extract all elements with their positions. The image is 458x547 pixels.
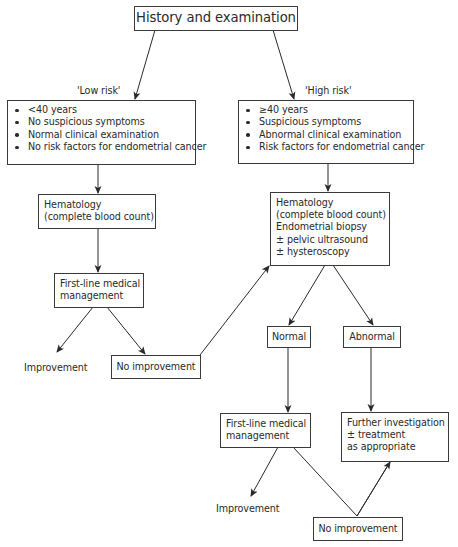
box-line: Further investigation	[347, 417, 443, 429]
criterion: Risk factors for endometrial cancer	[243, 141, 409, 153]
box-line: Hematology	[44, 199, 150, 211]
criterion: No suspicious symptoms	[12, 116, 191, 128]
normal-box: Normal	[267, 326, 311, 348]
box-line: management	[60, 290, 138, 302]
diagram-title: History and examination	[136, 12, 296, 24]
low-risk-hematology-box: Hematology (complete blood count)	[38, 194, 156, 229]
high-risk-label: 'High risk'	[305, 85, 351, 97]
box-text: No improvement	[318, 523, 397, 535]
high-risk-first-line-box: First-line medical management	[220, 413, 311, 448]
criterion: Normal clinical examination	[12, 129, 191, 141]
box-text: Normal	[272, 331, 306, 343]
box-line: (complete blood count)	[44, 211, 150, 223]
low-risk-label: 'Low risk'	[77, 85, 120, 97]
criterion: No risk factors for endometrial cancer	[12, 141, 191, 153]
box-text: Abnormal	[349, 331, 394, 343]
box-line: Hematology	[276, 197, 384, 209]
history-examination-box: History and examination	[134, 6, 298, 31]
high-risk-investigations-box: Hematology (complete blood count) Endome…	[270, 192, 390, 266]
box-line: ± treatment	[347, 429, 443, 441]
low-risk-criteria-box: <40 years No suspicious symptoms Normal …	[7, 100, 196, 165]
box-line: First-line medical	[60, 278, 138, 290]
low-risk-no-improvement-box: No improvement	[111, 355, 201, 379]
criterion: ≥40 years	[243, 104, 409, 116]
box-text: No improvement	[116, 361, 195, 373]
further-investigation-box: Further investigation ± treatment as app…	[341, 412, 449, 462]
high-risk-criteria-box: ≥40 years Suspicious symptoms Abnormal c…	[238, 100, 414, 164]
high-risk-no-improvement-box: No improvement	[313, 517, 403, 541]
box-line: First-line medical	[226, 418, 305, 430]
abnormal-box: Abnormal	[343, 326, 401, 348]
box-line: (complete blood count)	[276, 209, 384, 221]
low-risk-improvement-label: Improvement	[24, 362, 87, 374]
box-line: ± hysteroscopy	[276, 246, 384, 258]
criterion: Suspicious symptoms	[243, 116, 409, 128]
box-line: as appropriate	[347, 441, 443, 453]
box-line: ± pelvic ultrasound	[276, 234, 384, 246]
criterion: <40 years	[12, 104, 191, 116]
box-line: management	[226, 430, 305, 442]
criterion: Abnormal clinical examination	[243, 129, 409, 141]
high-risk-improvement-label: Improvement	[216, 503, 279, 515]
box-line: Endometrial biopsy	[276, 221, 384, 233]
low-risk-first-line-box: First-line medical management	[54, 273, 144, 308]
